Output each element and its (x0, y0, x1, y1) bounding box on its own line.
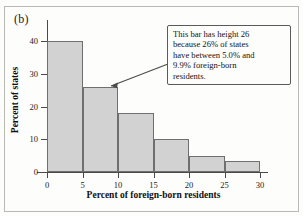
y-axis-tick-label: 20 (30, 102, 39, 112)
callout-line-4: 9.9% foreign-born (173, 60, 285, 70)
histogram-bar (189, 156, 225, 172)
y-axis-tick-label: 0 (34, 167, 38, 177)
y-axis-tick-label: 30 (30, 69, 39, 79)
callout-box: This bar has height 26 because 26% of st… (167, 25, 291, 85)
histogram-bar (118, 113, 154, 172)
x-axis-tick-label: 30 (256, 180, 265, 190)
x-axis-tick-label: 5 (80, 180, 84, 190)
figure-container: (b) Percent of states 010203040051015202… (0, 0, 303, 216)
x-axis-tick: 10 (118, 172, 119, 178)
x-axis-tick: 30 (260, 172, 261, 178)
panel-label: (b) (14, 12, 29, 27)
callout-line-5: residents. (173, 71, 285, 81)
callout-line-3: have between 5.0% and (173, 50, 285, 60)
y-axis-title-text: Percent of states (10, 67, 20, 133)
x-axis-tick-label: 10 (114, 180, 123, 190)
y-axis-tick-label: 40 (30, 36, 39, 46)
x-axis-tick: 0 (47, 172, 48, 178)
x-axis-tick-label: 20 (185, 180, 194, 190)
callout-line-2: because 26% of states (173, 39, 285, 49)
x-axis-tick: 15 (154, 172, 155, 178)
callout-line-1: This bar has height 26 (173, 29, 285, 39)
x-axis-tick: 5 (83, 172, 84, 178)
y-axis-tick-label: 10 (30, 134, 39, 144)
x-axis-tick-label: 0 (45, 180, 49, 190)
x-axis-tick-label: 25 (220, 180, 229, 190)
histogram-bar (154, 139, 190, 172)
histogram-bar (225, 161, 261, 172)
x-axis-tick-label: 15 (149, 180, 158, 190)
histogram-bar (83, 87, 119, 172)
x-axis-tick: 20 (189, 172, 190, 178)
x-axis-tick: 25 (225, 172, 226, 178)
y-axis-title: Percent of states (8, 28, 22, 172)
x-axis-title: Percent of foreign-born residents (47, 190, 260, 200)
histogram-bar (47, 41, 83, 172)
